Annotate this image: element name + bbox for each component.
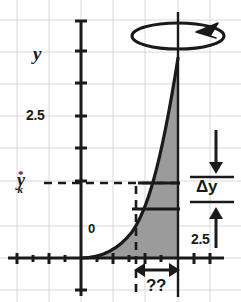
unknown-width-label: ?? bbox=[146, 277, 166, 294]
arrow-down-icon bbox=[209, 130, 223, 174]
y-axis bbox=[75, 20, 87, 296]
shaded-region bbox=[81, 58, 178, 258]
double-headed-arrow-icon bbox=[134, 263, 180, 277]
arrow-up-icon bbox=[209, 207, 223, 248]
y-axis-tick-label: 2.5 bbox=[26, 108, 45, 122]
sample-height-label: y*k bbox=[17, 170, 36, 193]
origin-label: 0 bbox=[88, 222, 95, 235]
y-axis-label: y bbox=[33, 44, 41, 63]
shell-method-figure: y 2.5 y*k 0 2.5 Δy ?? bbox=[0, 0, 241, 302]
sample-height-superscript: * bbox=[18, 168, 24, 180]
delta-y-label: Δy bbox=[196, 178, 217, 195]
sample-height-subscript: k bbox=[18, 183, 24, 195]
x-axis-tick-label: 2.5 bbox=[191, 232, 210, 246]
